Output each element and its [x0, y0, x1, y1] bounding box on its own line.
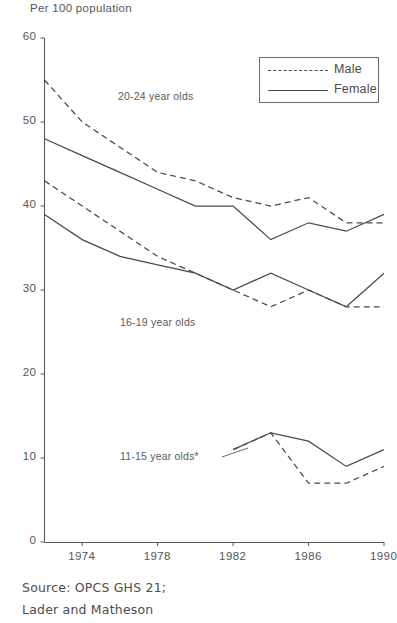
legend-swatch-female: [268, 90, 328, 91]
x-axis-tick-label: 1974: [68, 550, 95, 562]
y-axis-tick-label: 0: [14, 534, 36, 546]
y-axis-tick-label: 50: [14, 114, 36, 126]
x-axis-tick-label: 1990: [370, 550, 397, 562]
x-axis-tick-label: 1978: [144, 550, 171, 562]
source-note-line-1: Source: OPCS GHS 21;: [22, 580, 166, 595]
y-axis-tick-label: 10: [14, 450, 36, 462]
axes: [45, 38, 385, 543]
legend: Male Female: [259, 57, 379, 103]
legend-label-male: Male: [334, 62, 362, 76]
source-note-line-2: Lader and Matheson: [22, 602, 154, 617]
series-line-16-19-male: [45, 181, 385, 307]
series-line-11-15-male: [233, 433, 384, 483]
legend-item-female: Female: [260, 80, 378, 101]
y-axis-tick-label: 30: [14, 282, 36, 294]
annotation-20-24-year-olds: 20-24 year olds: [118, 90, 193, 102]
legend-swatch-male: [268, 70, 328, 71]
y-axis-ticks: [41, 38, 45, 542]
series-line-20-24-female: [45, 139, 385, 240]
data-series-group: [45, 80, 385, 483]
y-axis-tick-label: 40: [14, 198, 36, 210]
series-line-11-15-female: [233, 433, 384, 467]
y-axis-tick-label: 20: [14, 366, 36, 378]
annotation-16-19-year-olds: 16-19 year olds: [120, 316, 195, 328]
annotation-11-15-year-olds: 11-15 year olds*: [120, 450, 199, 462]
legend-item-male: Male: [260, 60, 378, 81]
legend-label-female: Female: [334, 82, 377, 96]
x-axis-tick-label: 1986: [295, 550, 322, 562]
y-axis-tick-label: 60: [14, 30, 36, 42]
x-axis-tick-label: 1982: [219, 550, 246, 562]
